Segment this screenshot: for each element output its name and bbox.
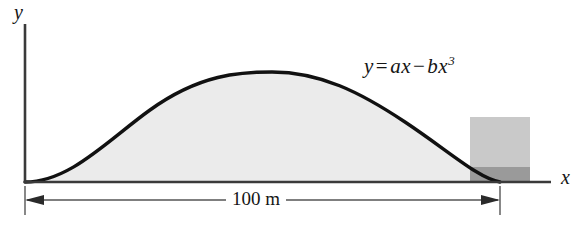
figure-container: y x y=ax−bx3 100 m xyxy=(0,0,583,238)
equation-term-one: ax xyxy=(390,54,411,78)
axis-label-y: y xyxy=(14,1,23,24)
dimension-label: 100 m xyxy=(226,188,286,210)
equation-term-two: bx xyxy=(427,54,448,78)
dimension-arrow-right xyxy=(481,195,500,205)
equation-minus: − xyxy=(411,54,427,78)
equation-lhs: y xyxy=(364,54,374,78)
hill-fill-region xyxy=(25,72,500,182)
figure-graphic xyxy=(0,0,583,238)
dimension-arrow-left xyxy=(25,195,44,205)
curve-equation-label: y=ax−bx3 xyxy=(364,53,455,79)
equation-equals: = xyxy=(374,54,390,78)
equation-exponent: 3 xyxy=(448,53,455,68)
axis-label-x: x xyxy=(561,166,570,189)
